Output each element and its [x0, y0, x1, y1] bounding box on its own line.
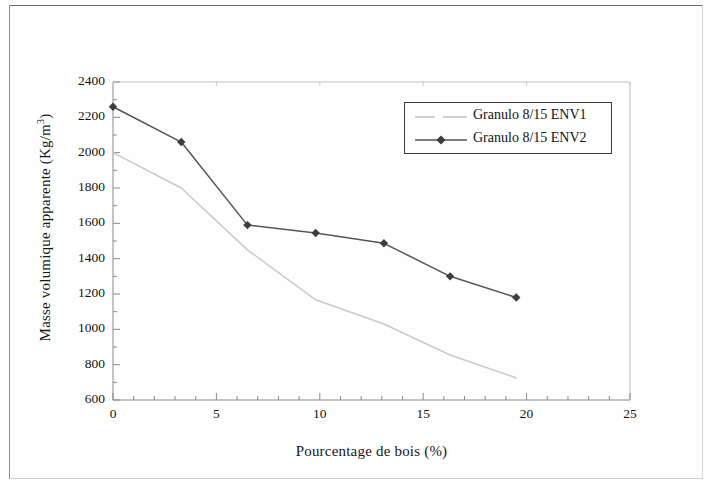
x-tick-label: 20: [512, 406, 542, 422]
y-tick-label: 2200: [61, 108, 105, 124]
legend-label-env1: Granulo 8/15 ENV1: [473, 107, 587, 123]
y-axis-title: Masse volumique apparente (Kg/m3): [35, 88, 54, 368]
y-tick-label: 2000: [61, 144, 105, 160]
x-tick-label: 15: [408, 406, 438, 422]
x-tick-label: 10: [305, 406, 335, 422]
y-tick-label: 800: [61, 356, 105, 372]
series-marker-env2: [311, 229, 319, 237]
series-marker-env2: [446, 272, 454, 280]
y-tick-label: 2400: [61, 73, 105, 89]
series-line-env1: [113, 153, 516, 378]
y-axis-title-main: Masse volumique apparente (Kg/m: [37, 124, 53, 341]
series-marker-env2: [109, 103, 117, 111]
x-tick-label: 0: [98, 406, 128, 422]
y-tick-label: 600: [61, 391, 105, 407]
chart-legend: Granulo 8/15 ENV1 Granulo 8/15 ENV2: [404, 102, 612, 154]
y-tick-label: 1600: [61, 214, 105, 230]
series-marker-env2: [512, 293, 520, 301]
x-tick-label: 25: [615, 406, 645, 422]
y-tick-label: 1400: [61, 250, 105, 266]
legend-line-sample-env2: [413, 128, 469, 152]
y-tick-label: 1000: [61, 320, 105, 336]
x-tick-label: 5: [201, 406, 231, 422]
y-axis-title-tail: ): [37, 114, 53, 119]
legend-entry-env2: Granulo 8/15 ENV2: [405, 128, 611, 152]
y-tick-label: 1800: [61, 179, 105, 195]
y-tick-label: 1200: [61, 285, 105, 301]
legend-label-env2: Granulo 8/15 ENV2: [473, 130, 587, 146]
x-axis-title: Pourcentage de bois (%): [113, 443, 630, 460]
series-marker-env2: [380, 239, 388, 247]
legend-entry-env1: Granulo 8/15 ENV1: [405, 105, 611, 129]
legend-line-sample-env1: [413, 105, 469, 129]
y-axis-title-exponent: 3: [35, 119, 46, 124]
scanned-page: Masse volumique apparente (Kg/m3) Pource…: [0, 0, 709, 492]
chart-figure: Masse volumique apparente (Kg/m3) Pource…: [0, 0, 709, 492]
